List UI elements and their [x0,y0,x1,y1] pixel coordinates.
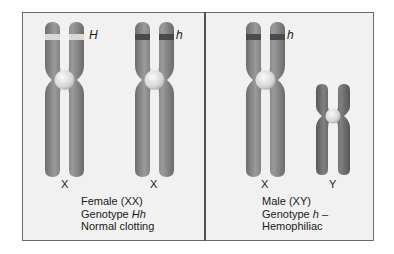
female-x-chromosome-2 [135,22,174,177]
caption-line: Female (XX) [81,195,154,208]
caption-line: Hemophiliac [262,220,328,233]
caption-text: Genotype [81,208,132,220]
caption-line: Normal clotting [81,220,154,233]
chromosome-label: Y [329,178,336,190]
female-caption: Female (XX) Genotype Hh Normal clotting [81,195,154,233]
centromere [256,70,276,90]
chromosome-illustration [0,0,394,254]
gene-band-dark [135,34,150,40]
male-caption: Male (XY) Genotype h – Hemophiliac [262,195,328,233]
centromere [55,70,75,90]
male-x-chromosome [246,22,285,177]
caption-text: – [319,208,328,220]
gene-band-dark [270,34,285,40]
allele-label: h [287,28,294,42]
centromere [326,109,341,124]
female-x-chromosome-1 [45,22,84,177]
allele-label: H [89,28,98,42]
allele-label: h [176,28,183,42]
caption-line: Male (XY) [262,195,328,208]
caption-line: Genotype h – [262,208,328,221]
genotype-text: Hh [132,208,146,220]
caption-line: Genotype Hh [81,208,154,221]
gene-band-dark [159,34,174,40]
gene-band-light [69,34,84,40]
gene-band-dark [246,34,261,40]
gene-band-light [45,34,60,40]
centromere [145,70,165,90]
chromosome-label: X [61,178,68,190]
male-y-chromosome [316,84,350,175]
chromosome-label: X [261,178,268,190]
caption-text: Genotype [262,208,313,220]
chromosome-label: X [150,178,157,190]
